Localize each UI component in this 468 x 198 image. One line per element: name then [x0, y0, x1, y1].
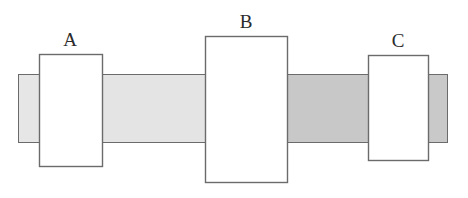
block-a-label: A — [63, 29, 77, 50]
shaft-diagram: A B C — [0, 0, 468, 198]
block-b-label: B — [240, 11, 253, 32]
block-a — [40, 55, 103, 167]
shaft-segment-b-to-c — [287, 75, 371, 143]
block-c-label: C — [392, 30, 405, 51]
diagram-canvas: A B C — [0, 0, 468, 198]
block-b — [206, 37, 288, 183]
block-c — [369, 56, 429, 161]
block-b-group: B — [206, 11, 288, 183]
